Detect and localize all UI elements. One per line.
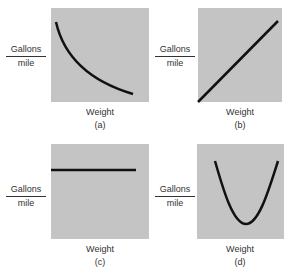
y-axis-label-c: Gallons mile [6,184,46,209]
caption-b: (b) [190,120,290,130]
y-numerator: Gallons [6,44,46,57]
y-denominator: mile [6,57,46,69]
line-flat [51,144,149,239]
y-denominator: mile [155,197,195,209]
curve-decreasing [51,8,149,102]
y-axis-label-b: Gallons mile [155,44,195,69]
y-numerator: Gallons [6,184,46,197]
plot-area-a [51,8,149,102]
caption-a: (a) [50,120,150,130]
line-increasing [198,8,282,102]
caption-c: (c) [50,257,150,267]
caption-d: (d) [190,257,290,267]
y-denominator: mile [6,197,46,209]
x-axis-label-a: Weight [50,107,150,117]
y-numerator: Gallons [155,184,195,197]
y-axis-label-d: Gallons mile [155,184,195,209]
y-denominator: mile [155,57,195,69]
plot-area-c [51,144,149,239]
curve-u-shaped [197,144,284,239]
x-axis-label-c: Weight [50,244,150,254]
x-axis-label-d: Weight [190,244,290,254]
plot-area-d [197,144,284,239]
plot-area-b [198,8,282,102]
y-axis-label-a: Gallons mile [6,44,46,69]
x-axis-label-b: Weight [190,107,290,117]
y-numerator: Gallons [155,44,195,57]
